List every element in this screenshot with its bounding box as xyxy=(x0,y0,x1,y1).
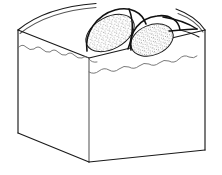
block-diagram-svg xyxy=(0,0,222,175)
figure-root xyxy=(0,0,222,175)
